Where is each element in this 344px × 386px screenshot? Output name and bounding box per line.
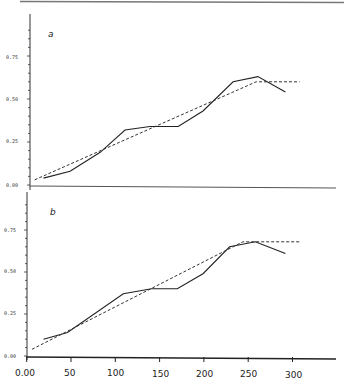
series-fitted-a [35,82,300,180]
y-tick-label: 0.25 [4,310,16,316]
y-tick-label: 0.00 [6,182,18,188]
y-tick-label: 0.50 [6,96,18,102]
x-axis-b [26,357,336,359]
panel-label-b: b [50,207,56,217]
x-tick-label: 0.00 [15,368,35,378]
x-tick-label: 100 [107,368,124,378]
y-tick-label: 0.75 [6,54,18,60]
y-tick-label: 0.75 [4,227,16,233]
x-tick-label: 50 [64,368,76,378]
x-axis-a [30,186,336,188]
panel-a: a 0.75 0.50 0.25 0.00 [6,14,336,190]
top-border [20,2,344,3]
x-tick-label: 200 [196,369,213,379]
y-tick-label: 0.50 [4,268,16,274]
x-tick-label: 250 [240,369,257,379]
y-tick-label: 0.25 [6,138,18,144]
panel-b: b 0.75 0.50 0.25 0.00 0.00 50 100 150 20… [4,192,336,380]
x-tick-label: 300 [285,370,302,380]
x-tick-label: 150 [152,369,169,379]
series-observed-b [44,242,286,339]
series-observed-a [44,77,286,179]
y-tick-label: 0.00 [4,353,16,359]
figure: a 0.75 0.50 0.25 0.00 b 0.75 0.50 0.25 0… [0,0,344,386]
series-fitted-b [32,242,300,349]
panel-label-a: a [48,29,54,39]
